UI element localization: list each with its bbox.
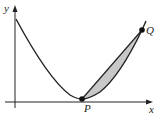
chord-pq: [82, 30, 142, 99]
point-q-label: Q: [146, 24, 154, 36]
curve: [16, 19, 146, 99]
y-axis-label: y: [3, 2, 9, 14]
y-axis-arrow-icon: [13, 5, 18, 12]
graph-diagram: y x P Q: [0, 0, 156, 115]
point-p-label: P: [83, 102, 91, 114]
x-axis-label: x: [148, 103, 154, 115]
point-q-marker: [139, 27, 145, 33]
point-p-marker: [79, 96, 85, 102]
